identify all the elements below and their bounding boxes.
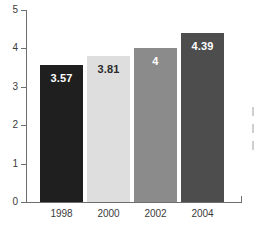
bar-chart: 5 4 3 2 1 0 3.57 3.81 4 4.39 1998 2000 2…: [0, 0, 254, 230]
x-axis-label-2000: 2000: [87, 208, 130, 219]
plot-area: 5 4 3 2 1 0 3.57 3.81 4 4.39 1998 2000 2…: [0, 0, 254, 230]
bar-value-label: 3.57: [40, 73, 83, 84]
y-axis-tick: [21, 48, 27, 49]
y-axis-tick-label: 0: [4, 197, 18, 207]
bar-value-label: 4: [134, 56, 177, 67]
y-axis-tick: [21, 87, 27, 88]
y-axis-tick-label: 1: [4, 159, 18, 169]
y-axis-tick: [21, 125, 27, 126]
x-axis-label-2002: 2002: [134, 208, 177, 219]
legend-swatch-fragment: [252, 124, 254, 133]
legend-swatch-fragment: [252, 141, 254, 150]
bar-2000[interactable]: 3.81: [87, 56, 130, 202]
y-axis-tick-label: 2: [4, 120, 18, 130]
bar-1998[interactable]: 3.57: [40, 65, 83, 202]
bar-value-label: 3.81: [87, 64, 130, 75]
x-axis-label-1998: 1998: [40, 208, 83, 219]
y-axis-line: [26, 10, 27, 203]
bar-2002[interactable]: 4: [134, 48, 177, 202]
x-axis-endcap: [241, 196, 242, 203]
y-axis-tick: [21, 10, 27, 11]
x-axis-label-2004: 2004: [181, 208, 224, 219]
y-axis-tick: [21, 164, 27, 165]
legend-swatch-fragment: [252, 107, 254, 116]
y-axis-tick-label: 5: [4, 5, 18, 15]
y-axis-tick-label: 3: [4, 82, 18, 92]
bar-2004[interactable]: 4.39: [181, 33, 224, 202]
y-axis-tick-label: 4: [4, 43, 18, 53]
bar-value-label: 4.39: [181, 41, 224, 52]
x-axis-line: [26, 202, 242, 203]
